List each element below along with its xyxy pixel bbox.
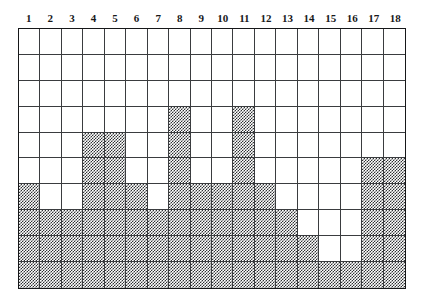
grid-cell-r7-c16 [341, 184, 362, 210]
column-label-10: 10 [212, 6, 234, 26]
grid-cell-r7-c18 [384, 184, 405, 210]
grid-cell-r9-c3 [62, 236, 83, 262]
grid-cell-r2-c7 [148, 55, 169, 81]
grid-cell-r8-c2 [40, 210, 61, 236]
grid-cell-r9-c17 [362, 236, 383, 262]
grid-cell-r2-c14 [298, 55, 319, 81]
grid-cell-r3-c6 [126, 81, 147, 107]
grid-cell-r2-c17 [362, 55, 383, 81]
grid-cell-r9-c14 [298, 236, 319, 262]
column-header-row: 123456789101112131415161718 [18, 6, 406, 26]
grid-cell-r9-c13 [276, 236, 297, 262]
grid-cell-r10-c10 [212, 262, 233, 288]
grid-cell-r2-c13 [276, 55, 297, 81]
grid-cell-r5-c12 [255, 133, 276, 159]
grid-cell-r6-c2 [40, 158, 61, 184]
grid-cell-r9-c1 [19, 236, 40, 262]
column-label-1: 1 [18, 6, 40, 26]
grid-cell-r8-c5 [105, 210, 126, 236]
grid-cell-r4-c12 [255, 107, 276, 133]
grid-cell-r6-c1 [19, 158, 40, 184]
column-label-14: 14 [298, 6, 320, 26]
grid-cell-r8-c3 [62, 210, 83, 236]
grid-cell-r5-c4 [83, 133, 104, 159]
grid-cell-r7-c9 [191, 184, 212, 210]
grid-cell-r9-c7 [148, 236, 169, 262]
grid-cell-r1-c3 [62, 29, 83, 55]
grid-cell-r4-c4 [83, 107, 104, 133]
grid-cell-r1-c5 [105, 29, 126, 55]
grid-cell-r6-c13 [276, 158, 297, 184]
grid-cell-r9-c18 [384, 236, 405, 262]
grid-cell-r5-c17 [362, 133, 383, 159]
grid-cell-r7-c7 [148, 184, 169, 210]
grid-cell-r7-c12 [255, 184, 276, 210]
grid-cell-r2-c9 [191, 55, 212, 81]
grid-cell-r3-c15 [319, 81, 340, 107]
grid-cell-r4-c6 [126, 107, 147, 133]
grid-cell-r2-c2 [40, 55, 61, 81]
column-label-3: 3 [61, 6, 83, 26]
grid-cell-r7-c11 [233, 184, 254, 210]
grid-cell-r9-c12 [255, 236, 276, 262]
grid-cell-r3-c7 [148, 81, 169, 107]
grid-cell-r8-c14 [298, 210, 319, 236]
grid-cell-r6-c8 [169, 158, 190, 184]
grid-cell-r10-c9 [191, 262, 212, 288]
grid-cell-r9-c11 [233, 236, 254, 262]
grid-cell-r7-c13 [276, 184, 297, 210]
grid-cell-r1-c6 [126, 29, 147, 55]
grid-cell-r7-c3 [62, 184, 83, 210]
grid-cell-r3-c17 [362, 81, 383, 107]
grid-cell-r10-c6 [126, 262, 147, 288]
grid-cell-r3-c9 [191, 81, 212, 107]
grid-cell-r5-c10 [212, 133, 233, 159]
grid-cell-r10-c17 [362, 262, 383, 288]
grid-cell-r5-c11 [233, 133, 254, 159]
grid-cell-r7-c4 [83, 184, 104, 210]
grid-cell-r1-c12 [255, 29, 276, 55]
grid-cell-r8-c8 [169, 210, 190, 236]
grid-cell-r4-c17 [362, 107, 383, 133]
grid-cell-r5-c16 [341, 133, 362, 159]
grid-cell-r5-c13 [276, 133, 297, 159]
grid-cell-r1-c17 [362, 29, 383, 55]
grid-cell-r10-c11 [233, 262, 254, 288]
grid-cell-r7-c6 [126, 184, 147, 210]
grid-cell-r6-c7 [148, 158, 169, 184]
grid-cell-r10-c8 [169, 262, 190, 288]
grid-cell-r8-c9 [191, 210, 212, 236]
grid-cell-r3-c2 [40, 81, 61, 107]
grid-cell-r8-c12 [255, 210, 276, 236]
grid-cell-r9-c2 [40, 236, 61, 262]
grid-cell-r1-c11 [233, 29, 254, 55]
grid-cell-r5-c9 [191, 133, 212, 159]
grid-cell-r1-c18 [384, 29, 405, 55]
grid-cell-r8-c1 [19, 210, 40, 236]
grid-cell-r2-c4 [83, 55, 104, 81]
grid-cell-r6-c10 [212, 158, 233, 184]
grid-cell-r8-c6 [126, 210, 147, 236]
grid-cell-r1-c16 [341, 29, 362, 55]
grid-cell-r10-c3 [62, 262, 83, 288]
grid-cell-r9-c10 [212, 236, 233, 262]
grid-cell-r4-c11 [233, 107, 254, 133]
grid-cell-r3-c10 [212, 81, 233, 107]
grid-cell-r9-c6 [126, 236, 147, 262]
grid-cell-r2-c12 [255, 55, 276, 81]
grid-cell-r7-c2 [40, 184, 61, 210]
grid-cell-r3-c5 [105, 81, 126, 107]
grid-cell-r8-c16 [341, 210, 362, 236]
grid-cell-r1-c4 [83, 29, 104, 55]
column-label-11: 11 [234, 6, 256, 26]
grid-cell-r2-c8 [169, 55, 190, 81]
grid-cell-r2-c1 [19, 55, 40, 81]
grid-cell-r6-c11 [233, 158, 254, 184]
grid-cell-r2-c16 [341, 55, 362, 81]
grid-cell-r10-c7 [148, 262, 169, 288]
grid-cell-r3-c13 [276, 81, 297, 107]
grid-cell-r7-c10 [212, 184, 233, 210]
grid-cell-r4-c1 [19, 107, 40, 133]
column-label-18: 18 [385, 6, 407, 26]
grid-cell-r4-c16 [341, 107, 362, 133]
